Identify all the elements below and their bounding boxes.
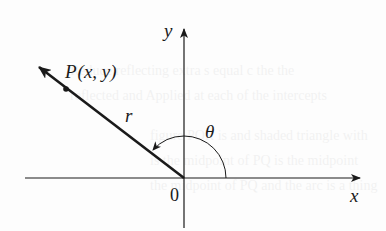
diagram-canvas: y x 0 P(x, y) r θ	[0, 0, 386, 231]
point-coordinates: (x, y)	[78, 61, 117, 83]
y-axis-label: y	[162, 20, 173, 41]
angle-arc	[153, 136, 226, 178]
x-axis-label: x	[349, 185, 359, 206]
radius-label: r	[125, 105, 133, 126]
point-label: P(x, y)	[64, 61, 117, 83]
angle-label: θ	[205, 121, 214, 142]
point-p-marker	[63, 86, 69, 92]
radius-vector	[39, 67, 184, 178]
point-name: P	[64, 61, 77, 82]
origin-label: 0	[170, 185, 179, 205]
polar-coordinates-diagram: Reduce reflecting extra s equal c the th…	[0, 0, 386, 231]
